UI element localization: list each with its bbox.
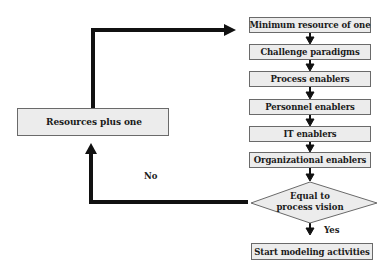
step-label: Personnel enablers xyxy=(265,102,355,112)
no-edge-label: No xyxy=(144,171,157,181)
step-label: Minimum resource of one xyxy=(250,20,371,30)
step-minimum-resource-box: Minimum resource of one xyxy=(249,17,371,33)
no-branch-arrow xyxy=(85,143,248,202)
step-personnel-enablers-box: Personnel enablers xyxy=(249,99,371,115)
step-challenge-paradigms-box: Challenge paradigms xyxy=(249,44,371,60)
step-it-enablers-box: IT enablers xyxy=(249,126,371,142)
step-organizational-enablers-box: Organizational enablers xyxy=(249,152,371,168)
step-label: Process enablers xyxy=(271,74,350,84)
step-label: Challenge paradigms xyxy=(260,47,359,57)
yes-edge-label: Yes xyxy=(324,225,340,235)
flowchart-canvas: Resources plus one Minimum resource of o… xyxy=(0,0,391,274)
decision-line-2: process vision xyxy=(270,202,350,213)
start-modeling-activities-box: Start modeling activities xyxy=(251,243,373,260)
step-label: IT enablers xyxy=(283,129,336,139)
resources-plus-one-label: Resources plus one xyxy=(46,117,142,127)
loop-back-arrow-top xyxy=(93,24,236,108)
decision-label: Equal to process vision xyxy=(270,191,350,213)
decision-line-1: Equal to xyxy=(270,191,350,202)
resources-plus-one-box: Resources plus one xyxy=(17,108,169,136)
step-process-enablers-box: Process enablers xyxy=(249,71,371,87)
end-label: Start modeling activities xyxy=(254,247,369,257)
step-label: Organizational enablers xyxy=(254,155,366,165)
